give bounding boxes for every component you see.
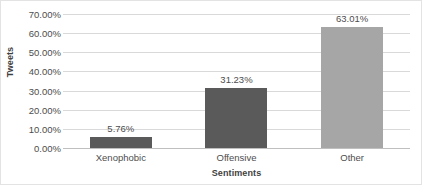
bar-data-label: 63.01%: [336, 13, 368, 24]
y-axis-tick-label: 10.00%: [17, 123, 61, 134]
bar-data-label: 31.23%: [220, 74, 252, 85]
bar-offensive[interactable]: [205, 88, 267, 148]
bar-slot: 31.23%: [179, 14, 295, 148]
bar-xenophobic[interactable]: [90, 137, 152, 148]
y-axis-tick-label: 50.00%: [17, 47, 61, 58]
bars-layer: 5.76%31.23%63.01%: [63, 14, 410, 148]
y-axis-tick-label: 40.00%: [17, 66, 61, 77]
y-axis-tick-label: 60.00%: [17, 28, 61, 39]
x-axis-category-label: Offensive: [217, 152, 257, 163]
plot-area: 5.76%31.23%63.01%: [63, 14, 410, 148]
bar-data-label: 5.76%: [107, 123, 134, 134]
x-axis-category-label: Other: [340, 152, 364, 163]
x-axis-category-label: Xenophobic: [96, 152, 146, 163]
bar-slot: 63.01%: [294, 14, 410, 148]
y-axis-tick-label: 20.00%: [17, 104, 61, 115]
y-axis-tick-label: 0.00%: [17, 143, 61, 154]
bar-other[interactable]: [321, 27, 383, 148]
y-axis-tick-label: 70.00%: [17, 9, 61, 20]
x-axis-title: Sentiments: [63, 168, 410, 178]
bar-chart-figure: Tweets 0.00%10.00%20.00%30.00%40.00%50.0…: [0, 0, 422, 185]
y-axis-tick-label: 30.00%: [17, 85, 61, 96]
y-axis-title: Tweets: [5, 34, 15, 90]
bar-slot: 5.76%: [63, 14, 179, 148]
x-axis-category-labels: XenophobicOffensiveOther: [63, 152, 410, 166]
y-axis-tick-labels: 0.00%10.00%20.00%30.00%40.00%50.00%60.00…: [17, 1, 61, 185]
axis-baseline: [63, 148, 410, 149]
